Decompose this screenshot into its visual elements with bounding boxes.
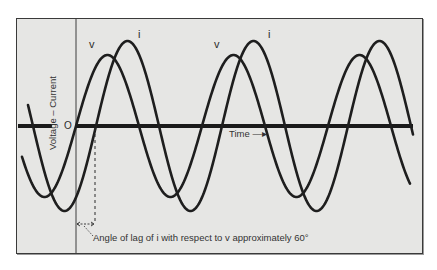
curve-label-i: i — [138, 28, 140, 40]
lag-annotation: Angle of lag of i with respect to v appr… — [93, 232, 309, 243]
time-axis-label: Time —▸ — [229, 128, 267, 139]
annotation-leader — [84, 226, 93, 236]
y-axis-label: Voltage – Current — [47, 76, 58, 150]
curve-label-v: v — [89, 38, 95, 50]
curve-label-v: v — [214, 38, 220, 50]
origin-label: O — [64, 120, 72, 131]
curve-label-i: i — [268, 28, 270, 40]
